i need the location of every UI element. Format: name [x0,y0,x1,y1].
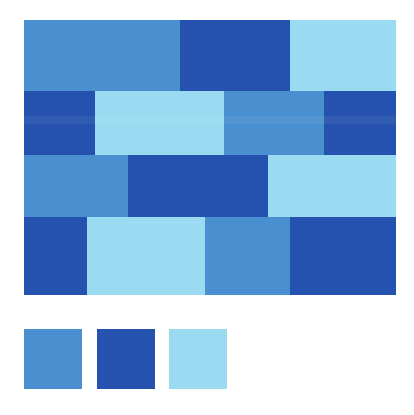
brick-r3-c1-medium-blue [24,155,128,217]
brick-r1-c2-dark-blue [180,20,290,91]
brick-r4-c2-light-blue [87,217,205,295]
swatch-medium-blue [24,329,82,389]
brick-r2-c1-dark-blue [24,91,95,155]
brick-r3-c2-dark-blue [128,155,268,217]
brick-r3-c3-light-blue [268,155,396,217]
brick-r2-c3-medium-blue [224,91,324,155]
swatch-dark-blue [97,329,155,389]
brick-r2-c2-light-blue [95,91,224,155]
brick-r1-c1-medium-blue [24,20,180,91]
brick-r4-c4-dark-blue [290,217,396,295]
brick-r2-c4-dark-blue [324,91,396,155]
brick-r4-c3-medium-blue [205,217,290,295]
swatch-light-blue [169,329,227,389]
brick-r1-c3-light-blue [290,20,396,91]
brick-pattern [0,0,414,300]
brick-r4-c1-dark-blue [24,217,87,295]
